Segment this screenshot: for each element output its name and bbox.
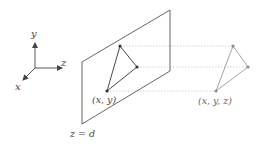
- projected-triangle: [105, 44, 138, 92]
- projected-triangle-outline: [107, 46, 137, 91]
- image-plane: [82, 10, 170, 124]
- coordinate-axes: y z x: [15, 28, 67, 92]
- original-vertex-bottom: [214, 89, 217, 92]
- original-triangle: [214, 44, 249, 92]
- original-triangle-outline: [216, 46, 248, 91]
- projection-lines: [107, 46, 248, 91]
- perspective-projection-diagram: y z x z = d (x, y) (x, y, z): [0, 0, 262, 145]
- original-point-label: (x, y, z): [198, 95, 232, 106]
- original-vertex-top: [231, 44, 234, 47]
- y-axis-label: y: [30, 28, 37, 39]
- image-plane-label: z = d: [69, 128, 95, 139]
- z-axis-label: z: [60, 57, 67, 68]
- projected-vertex-bottom: [105, 89, 108, 92]
- projected-point-label: (x, y): [92, 94, 116, 105]
- projected-vertex-top: [118, 44, 121, 47]
- projected-vertex-right: [135, 65, 138, 68]
- original-vertex-right: [246, 65, 249, 68]
- x-axis-label: x: [15, 81, 21, 92]
- x-axis-arrow: [23, 68, 35, 80]
